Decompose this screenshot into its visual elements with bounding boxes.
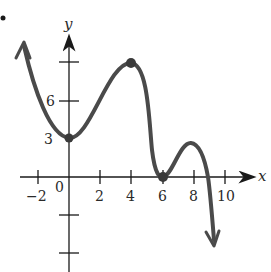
svg-text:8: 8 xyxy=(189,188,198,204)
svg-text:0: 0 xyxy=(55,179,64,195)
x-axis-label: x xyxy=(258,167,267,185)
function-graph: −2 0 2 4 6 8 10 3 6 x y xyxy=(0,0,271,272)
svg-text:2: 2 xyxy=(95,188,104,204)
svg-text:4: 4 xyxy=(126,188,135,204)
point-4-9 xyxy=(126,58,136,68)
y-axis-label: y xyxy=(63,15,73,33)
bullet-dot xyxy=(1,16,6,21)
point-6-0 xyxy=(158,172,168,182)
svg-text:10: 10 xyxy=(217,188,235,204)
svg-text:3: 3 xyxy=(44,131,53,147)
svg-text:−2: −2 xyxy=(26,188,47,204)
point-0-3 xyxy=(65,134,74,143)
svg-text:6: 6 xyxy=(158,188,167,204)
svg-text:6: 6 xyxy=(46,93,55,109)
